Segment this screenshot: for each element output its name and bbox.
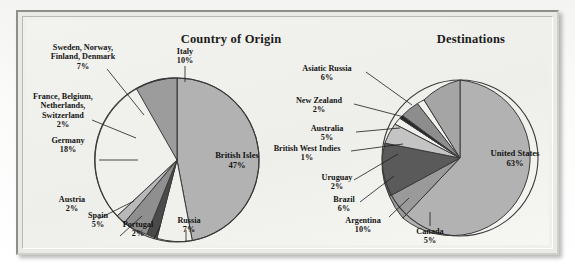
label-australia: Australia 5% bbox=[302, 124, 352, 143]
label-portugal: Portugal 2% bbox=[113, 220, 163, 239]
label-spain: Spain 5% bbox=[80, 211, 116, 230]
label-germany: Germany 18% bbox=[37, 136, 99, 155]
label-austria: Austria 2% bbox=[48, 195, 96, 214]
chart-frame-outer: Country of Origin Destinations bbox=[16, 10, 559, 255]
label-argentina: Argentina 10% bbox=[336, 216, 390, 235]
label-new-zealand: New Zealand 2% bbox=[287, 96, 351, 115]
chart-frame-inner: Country of Origin Destinations bbox=[22, 16, 553, 249]
label-uruguay: Uruguay 2% bbox=[315, 173, 359, 192]
label-asiatic-russia: Asiatic Russia 6% bbox=[291, 64, 363, 83]
figure-page: Country of Origin Destinations bbox=[0, 0, 575, 266]
label-brazil: Brazil 6% bbox=[326, 195, 362, 214]
label-british-west-indies: British West Indies 1% bbox=[262, 144, 352, 163]
label-france-belgium-netherlands-switzerland: France, Belgium, Netherlands, Switzerlan… bbox=[29, 92, 97, 130]
label-united-states: United States 63% bbox=[474, 148, 549, 168]
label-russia: Russia 7% bbox=[166, 216, 212, 235]
plot-area: Country of Origin Destinations bbox=[26, 20, 549, 245]
label-italy: Italy 10% bbox=[166, 47, 204, 66]
label-sweden-norway-finland-denmark: Sweden, Norway, Finland, Denmark 7% bbox=[38, 43, 128, 71]
label-canada: Canada 5% bbox=[408, 227, 452, 245]
